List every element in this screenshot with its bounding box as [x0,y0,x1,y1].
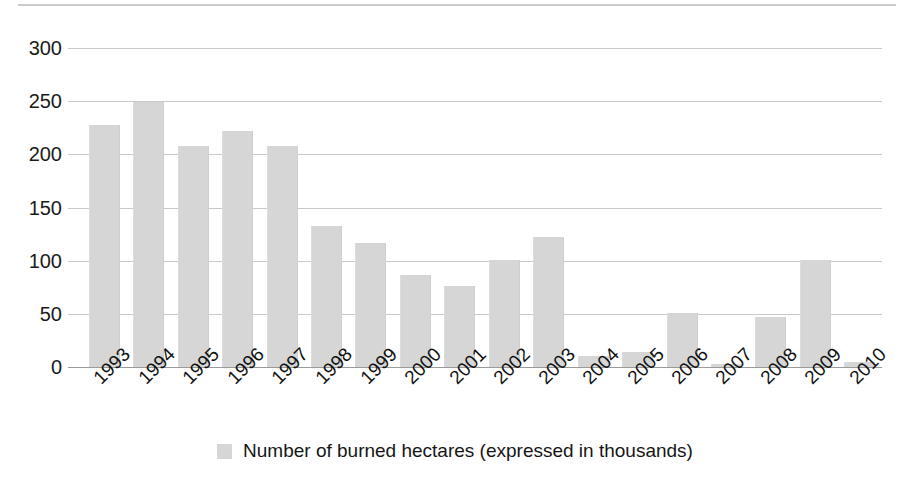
x-axis-tick-label-2007: 2007 [712,344,755,387]
y-axis-tick-label: 300 [2,38,62,58]
gridline-250 [68,101,882,102]
bar-1995[interactable] [178,146,209,367]
chart-legend: Number of burned hectares (expressed in … [0,440,910,462]
x-axis-tick-label-2010: 2010 [846,344,889,387]
bar-1994[interactable] [133,102,164,367]
y-axis-tick-label: 0 [2,357,62,377]
y-axis-tick-label: 250 [2,91,62,111]
bar-1996[interactable] [222,131,253,367]
y-axis-tick-label: 200 [2,144,62,164]
y-axis-tick-label: 50 [2,304,62,324]
y-axis-tick-label: 150 [2,198,62,218]
legend-swatch-icon [217,444,232,459]
bar-1993[interactable] [89,125,120,367]
x-axis-tick-label-2004: 2004 [579,344,622,387]
x-axis-tick-label-2005: 2005 [624,344,667,387]
legend-label: Number of burned hectares (expressed in … [243,440,693,462]
bar-1997[interactable] [267,146,298,367]
y-axis-tick-label: 100 [2,251,62,271]
bar-chart-plot-area: 0501001502002503001993199419951996199719… [0,0,910,485]
gridline-300 [68,48,882,49]
chart-page: 0501001502002503001993199419951996199719… [0,0,910,485]
